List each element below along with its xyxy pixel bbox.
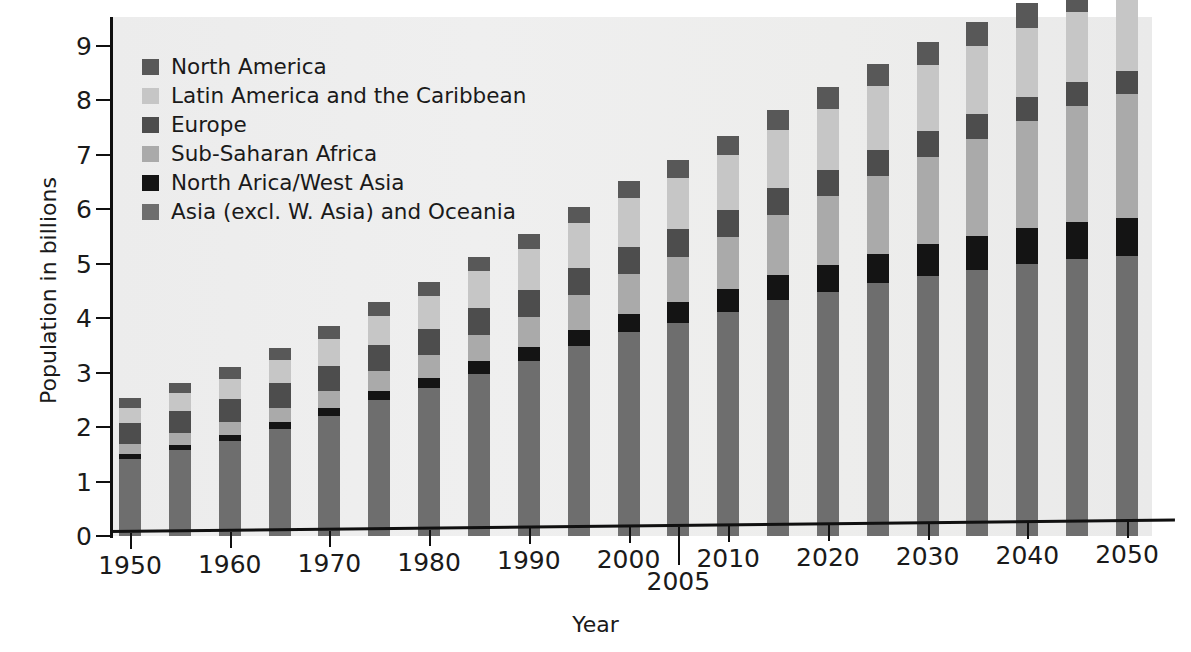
bar-segment [368, 391, 390, 400]
x-axis-tick-label: 2030 [896, 542, 960, 571]
bar-segment [867, 176, 889, 254]
bar-segment [618, 274, 640, 314]
bar-segment [767, 110, 789, 130]
bar-segment [468, 335, 490, 361]
bar-segment [518, 290, 540, 317]
bar-segment [1116, 71, 1138, 94]
bar-segment [1016, 3, 1038, 28]
bar-1965 [269, 348, 291, 536]
legend-item-label: Latin America and the Caribbean [171, 83, 526, 108]
y-axis-tick [96, 426, 110, 428]
y-axis-line [110, 17, 113, 538]
bar-segment [817, 109, 839, 170]
bar-segment [368, 316, 390, 345]
y-axis-tick [96, 263, 110, 265]
bar-segment [717, 210, 739, 237]
legend-swatch-icon [142, 175, 159, 191]
bar-segment [1016, 121, 1038, 228]
bar-segment [119, 459, 141, 536]
legend-swatch-icon [142, 146, 159, 162]
bar-segment [1066, 106, 1088, 222]
bar-segment [169, 411, 191, 433]
x-axis-tick-label: 1990 [497, 546, 561, 575]
bar-segment [269, 422, 291, 429]
bar-segment [518, 347, 540, 361]
bar-segment [618, 314, 640, 333]
bar-segment [468, 257, 490, 272]
bar-segment [767, 130, 789, 188]
bar-segment [368, 302, 390, 316]
bar-segment [418, 296, 440, 329]
bar-segment [1066, 0, 1088, 12]
x-axis-tick [828, 525, 830, 541]
legend-item-label: North America [171, 54, 327, 79]
bar-segment [966, 236, 988, 270]
bar-segment [1116, 256, 1138, 536]
bar-segment [219, 441, 241, 536]
x-axis-tick [529, 528, 531, 544]
bar-segment [318, 408, 340, 416]
bar-segment [1116, 0, 1138, 70]
bar-1955 [169, 383, 191, 536]
x-axis-tick-label: 2050 [1095, 540, 1159, 569]
bar-segment [119, 444, 141, 454]
bar-segment [1016, 228, 1038, 263]
bar-segment [1116, 94, 1138, 218]
bar-segment [119, 423, 141, 444]
bar-segment [219, 367, 241, 378]
bar-segment [568, 346, 590, 536]
legend-item: Asia (excl. W. Asia) and Oceania [142, 197, 612, 226]
bar-2050 [1116, 0, 1138, 536]
bar-segment [368, 345, 390, 371]
bar-segment [518, 317, 540, 347]
bar-segment [618, 181, 640, 198]
bar-segment [767, 215, 789, 275]
x-axis-tick [329, 531, 331, 547]
legend-item-label: North Arica/West Asia [171, 170, 404, 195]
bar-segment [468, 374, 490, 536]
bar-segment [667, 302, 689, 323]
bar-segment [917, 131, 939, 157]
bar-segment [568, 223, 590, 268]
bar-segment [318, 391, 340, 408]
bar-segment [269, 408, 291, 423]
bar-1970 [318, 326, 340, 536]
bar-segment [966, 139, 988, 236]
bar-segment [418, 329, 440, 355]
bar-segment [717, 289, 739, 312]
bar-segment [169, 445, 191, 450]
bar-segment [468, 361, 490, 374]
y-axis-tick-label: 0 [52, 522, 92, 551]
bar-segment [169, 433, 191, 444]
bar-segment [667, 257, 689, 303]
bar-segment [269, 360, 291, 383]
x-axis-tick-label: 1960 [198, 550, 262, 579]
y-axis-title: Population in billions [36, 91, 61, 491]
legend-swatch-icon [142, 59, 159, 75]
chart-page: 0123456789 19501960197019801990200020052… [0, 0, 1191, 652]
x-axis-tick [728, 526, 730, 542]
bar-segment [568, 295, 590, 330]
bar-segment [318, 416, 340, 536]
bar-segment [1066, 82, 1088, 106]
legend-item: Latin America and the Caribbean [142, 81, 612, 110]
bar-2000 [618, 181, 640, 536]
bar-2020 [817, 87, 839, 536]
legend: North AmericaLatin America and the Carib… [142, 52, 612, 226]
bar-segment [1066, 259, 1088, 536]
legend-item: Europe [142, 110, 612, 139]
bar-segment [169, 383, 191, 393]
bar-segment [269, 429, 291, 536]
bar-segment [1066, 12, 1088, 82]
bar-segment [269, 383, 291, 408]
bar-segment [219, 422, 241, 435]
y-axis-tick [96, 535, 110, 537]
bar-segment [618, 332, 640, 536]
bar-2015 [767, 110, 789, 536]
bar-segment [1016, 28, 1038, 97]
bar-2025 [867, 64, 889, 536]
x-axis-tick-label: 2020 [796, 543, 860, 572]
bar-1975 [368, 302, 390, 536]
x-axis-tick [629, 527, 631, 543]
bar-segment [767, 300, 789, 536]
